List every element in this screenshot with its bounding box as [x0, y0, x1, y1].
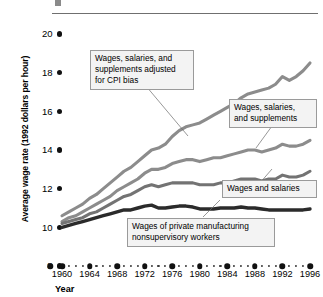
x-tick-dot-minor-1989 — [261, 265, 263, 267]
x-tick-label-1996: 1996 — [300, 269, 320, 279]
x-tick-dot-minor-1995 — [302, 265, 304, 267]
x-tick-label-1972: 1972 — [134, 269, 154, 279]
x-tick-dot-minor-1966 — [102, 265, 104, 267]
x-tick-dot-minor-1970 — [130, 265, 132, 267]
x-tick-dot-minor-1987 — [247, 265, 249, 267]
callout-nonsupervisory: Wages of private manufacturing nonsuperv… — [127, 218, 275, 247]
x-tick-label-1992: 1992 — [272, 269, 292, 279]
x-tick-dot-major-1988 — [252, 263, 258, 269]
x-tick-label-1968: 1968 — [107, 269, 127, 279]
x-tick-dot-minor-1965 — [95, 265, 97, 267]
callout-wages-and-salaries: Wages and salaries — [222, 180, 317, 198]
x-axis-origin-dot — [47, 263, 53, 269]
x-tick-dot-major-1964 — [87, 263, 93, 269]
leader-line-supp — [256, 126, 272, 148]
x-tick-dot-minor-1961 — [68, 265, 70, 267]
callout-supplements: Wages, salaries, and supplements — [229, 99, 317, 128]
header-tab-marker — [55, 0, 61, 6]
x-tick-label-1964: 1964 — [79, 269, 99, 279]
x-tick-dot-minor-1982 — [213, 265, 215, 267]
x-tick-label-1980: 1980 — [190, 269, 210, 279]
x-tick-dot-minor-1963 — [82, 265, 84, 267]
x-tick-dot-minor-1974 — [157, 265, 159, 267]
x-tick-dot-minor-1986 — [240, 265, 242, 267]
x-axis-labels: 1960196419681972197619801984198819921996 — [0, 269, 323, 283]
x-tick-dot-minor-1978 — [185, 265, 187, 267]
callout-cpi-adjusted: Wages, salaries, and supplements adjuste… — [90, 50, 194, 90]
x-tick-dot-minor-1983 — [219, 265, 221, 267]
x-tick-label-1988: 1988 — [245, 269, 265, 279]
x-tick-dot-minor-1981 — [206, 265, 208, 267]
x-tick-dot-minor-1985 — [233, 265, 235, 267]
x-tick-dot-major-1976 — [169, 263, 175, 269]
x-tick-label-1960: 1960 — [52, 269, 72, 279]
x-tick-dot-minor-1979 — [192, 265, 194, 267]
x-tick-label-1976: 1976 — [162, 269, 182, 279]
x-tick-dot-major-1992 — [280, 263, 286, 269]
wage-rate-line-chart: Average wage rate (1992 dollars per hour… — [0, 14, 323, 297]
x-tick-dot-minor-1977 — [178, 265, 180, 267]
x-tick-dot-major-1960 — [59, 263, 65, 269]
x-tick-dot-minor-1967 — [109, 265, 111, 267]
x-tick-dot-major-1968 — [114, 263, 120, 269]
x-tick-dot-minor-1969 — [123, 265, 125, 267]
x-tick-label-1984: 1984 — [217, 269, 237, 279]
x-tick-dot-minor-1994 — [295, 265, 297, 267]
x-tick-dot-minor-1975 — [164, 265, 166, 267]
x-tick-dot-minor-1962 — [75, 265, 77, 267]
x-tick-dot-major-1972 — [142, 263, 148, 269]
x-tick-dot-major-1980 — [197, 263, 203, 269]
x-tick-dot-major-1996 — [307, 263, 313, 269]
x-tick-dot-major-1984 — [225, 263, 231, 269]
x-tick-dot-minor-1993 — [288, 265, 290, 267]
cutoff-header-strip — [0, 0, 323, 14]
x-tick-dot-minor-1973 — [151, 265, 153, 267]
x-axis-title: Year — [55, 284, 74, 294]
x-tick-dot-minor-1971 — [137, 265, 139, 267]
x-tick-dot-minor-1991 — [275, 265, 277, 267]
x-tick-dot-minor-1990 — [268, 265, 270, 267]
leader-line-cpi — [146, 86, 188, 136]
